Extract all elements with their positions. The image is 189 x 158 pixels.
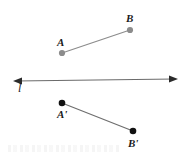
point-label-a-prime: A' xyxy=(57,109,67,120)
line-l-shaft xyxy=(16,79,175,81)
point-label-b-prime: B' xyxy=(128,138,138,149)
point-a-dot xyxy=(59,50,65,56)
point-b-prime-dot xyxy=(130,128,137,135)
figure-canvas xyxy=(0,0,189,158)
line-label-l: l xyxy=(18,82,21,94)
segment-ap-bp-line xyxy=(62,103,133,131)
scan-artifact xyxy=(8,145,120,152)
point-label-a: A xyxy=(57,37,64,48)
preimage-segment-group xyxy=(59,27,133,56)
point-label-b: B xyxy=(126,13,133,24)
line-l-arrowhead-right xyxy=(169,76,178,83)
image-segment-group xyxy=(59,100,137,135)
geometry-figure: A B A' B' l xyxy=(0,0,189,158)
point-a-prime-dot xyxy=(59,100,66,107)
segment-ab-line xyxy=(62,30,130,53)
point-b-dot xyxy=(127,27,133,33)
mirror-line-group xyxy=(13,76,178,85)
